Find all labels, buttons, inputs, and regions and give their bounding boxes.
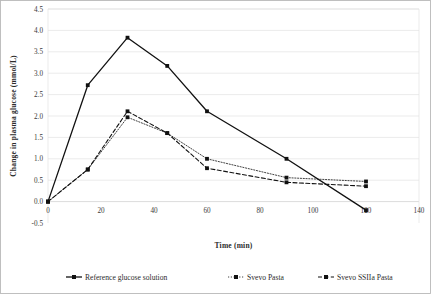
y-tick-label: 2.0 xyxy=(34,113,43,121)
chart-canvas: -0.50.00.51.01.52.02.53.03.54.04.5020406… xyxy=(0,0,431,294)
y-tick-label: 1.5 xyxy=(34,134,43,142)
data-point-marker xyxy=(126,109,130,113)
legend-item-label[interactable]: Reference glucose solution xyxy=(85,273,167,282)
data-point-marker xyxy=(205,166,209,170)
data-point-marker xyxy=(205,109,209,113)
x-tick-label: 0 xyxy=(46,207,50,215)
x-tick-label: 40 xyxy=(150,207,158,215)
legend-item-label[interactable]: Svevo SSIIa Pasta xyxy=(337,273,393,282)
data-point-marker xyxy=(46,200,50,204)
y-tick-label: 0.5 xyxy=(34,177,43,185)
data-point-marker xyxy=(165,131,169,135)
data-point-marker xyxy=(165,64,169,68)
legend-swatch-marker-1 xyxy=(234,275,238,279)
legend-item-label[interactable]: Svevo Pasta xyxy=(247,273,285,282)
x-tick-label: 140 xyxy=(414,207,425,215)
legend-swatch-marker-2 xyxy=(324,275,328,279)
y-tick-label: 0.0 xyxy=(34,198,43,206)
data-point-marker xyxy=(126,115,130,119)
x-tick-label: 60 xyxy=(203,207,211,215)
y-tick-label: 4.5 xyxy=(34,6,43,14)
y-tick-label: 1.0 xyxy=(34,155,43,163)
data-point-marker xyxy=(364,180,368,184)
y-tick-label: 4.0 xyxy=(34,27,43,35)
y-tick-label: 3.5 xyxy=(34,48,43,56)
data-point-marker xyxy=(285,180,289,184)
x-axis-title: Time (min) xyxy=(215,241,253,250)
data-point-marker xyxy=(86,168,90,172)
y-tick-label: -0.5 xyxy=(32,220,44,228)
x-tick-label: 100 xyxy=(308,207,319,215)
data-point-marker xyxy=(285,157,289,161)
y-axis-title: Change in plasma glucose (mmol/L) xyxy=(9,55,18,177)
x-tick-label: 20 xyxy=(97,207,105,215)
series-line-2 xyxy=(48,111,366,201)
data-point-marker xyxy=(364,208,368,212)
line-chart: -0.50.00.51.01.52.02.53.03.54.04.5020406… xyxy=(0,0,431,294)
x-tick-label: 80 xyxy=(256,207,264,215)
data-point-marker xyxy=(285,176,289,180)
y-tick-label: 3.0 xyxy=(34,70,43,78)
legend-swatch-marker-0 xyxy=(72,275,76,279)
data-point-marker xyxy=(364,184,368,188)
data-point-marker xyxy=(86,83,90,87)
data-point-marker xyxy=(126,36,130,40)
data-point-marker xyxy=(205,157,209,161)
y-tick-label: 2.5 xyxy=(34,91,43,99)
